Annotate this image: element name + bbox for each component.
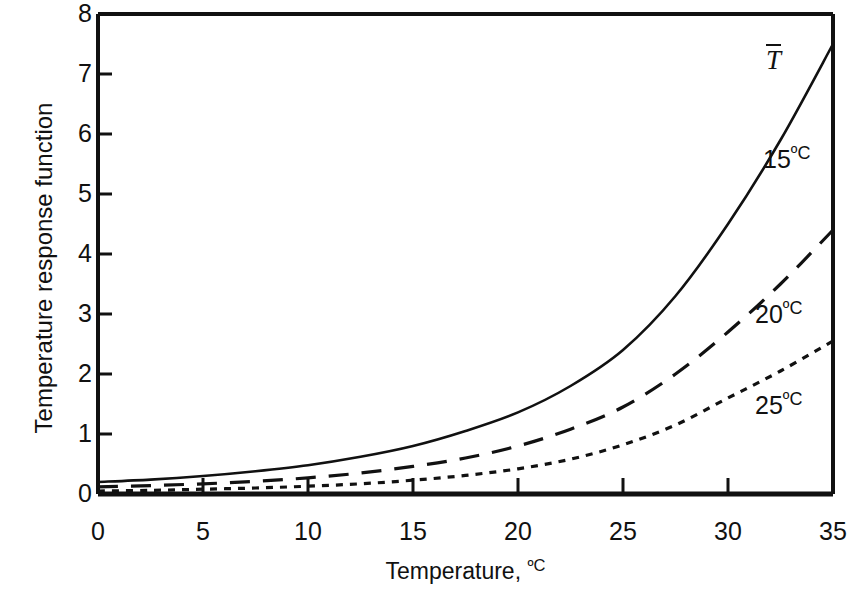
curve-label-20c-value: 20: [755, 300, 783, 328]
y-tick-label-3: 3: [52, 301, 92, 326]
data-curves: [98, 44, 833, 491]
curve-label-20c: 20ºC: [755, 299, 802, 327]
x-tick-label-0: 0: [68, 519, 128, 544]
curve-label-tbar-text: T: [766, 44, 781, 74]
y-tick-label-0: 0: [52, 481, 92, 506]
y-tick-label-7: 7: [52, 61, 92, 86]
curve-label-25c-value: 25: [755, 391, 783, 419]
series-curve-2: [98, 230, 833, 487]
curve-label-25c: 25ºC: [755, 390, 802, 418]
x-axis-title: Temperature, ºC: [98, 556, 833, 585]
y-tick-label-5: 5: [52, 181, 92, 206]
y-axis-ticks: [98, 74, 112, 434]
y-tick-label-2: 2: [52, 361, 92, 386]
y-axis-title: Temperature response function: [30, 58, 58, 478]
curve-label-15c: 15ºC: [763, 144, 810, 172]
curve-label-25c-unit: ºC: [783, 389, 803, 409]
y-tick-label-6: 6: [52, 121, 92, 146]
x-axis-title-unit: ºC: [527, 556, 545, 575]
x-tick-label-35: 35: [803, 519, 851, 544]
x-tick-label-15: 15: [383, 519, 443, 544]
x-tick-label-20: 20: [488, 519, 548, 544]
y-tick-label-4: 4: [52, 241, 92, 266]
series-curve-3: [98, 341, 833, 491]
x-tick-label-5: 5: [173, 519, 233, 544]
x-tick-label-10: 10: [278, 519, 338, 544]
curve-label-15c-value: 15: [763, 145, 791, 173]
x-tick-label-30: 30: [698, 519, 758, 544]
series-curve-1: [98, 44, 833, 482]
curve-label-20c-unit: ºC: [783, 298, 803, 318]
x-axis-title-text: Temperature,: [386, 558, 528, 584]
axis-frame: [98, 14, 833, 494]
curve-label-15c-unit: ºC: [791, 143, 811, 163]
curve-label-tbar: T: [766, 44, 781, 74]
x-tick-label-25: 25: [593, 519, 653, 544]
y-tick-label-1: 1: [52, 421, 92, 446]
y-tick-label-8: 8: [52, 1, 92, 26]
